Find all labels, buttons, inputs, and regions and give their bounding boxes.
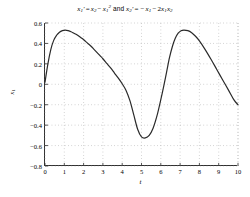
x-tick-label: 3 (101, 168, 104, 175)
y-tick-label: 0.4 (34, 40, 42, 47)
y-tick-label: −0.2 (30, 101, 42, 108)
title-x2: x2 (91, 5, 97, 13)
y-axis-label: x1 (8, 83, 16, 101)
figure-canvas: x1'=x2−x12 and x2'=−x1−2x1x2 x1 0.60.40.… (0, 0, 250, 197)
y-tick-label: 0 (39, 81, 42, 88)
chart-title: x1'=x2−x12 and x2'=−x1−2x1x2 (0, 4, 250, 13)
y-tick-label: −0.6 (30, 142, 42, 149)
plot-area: 0.60.40.20−0.2−0.4−0.6−0.8 012345678910 (44, 23, 237, 166)
x-tick-label: 10 (235, 168, 242, 175)
x-axis-label: t (44, 178, 237, 186)
x-tick-label: 1 (63, 168, 66, 175)
x-tick-label: 7 (178, 168, 181, 175)
title-x1-prime: x1' (77, 5, 84, 13)
x-tick-label: 4 (121, 168, 124, 175)
title-x1-squared: x12 (103, 5, 111, 13)
x-tick-label: 2 (82, 168, 85, 175)
y-tick-label: −0.4 (30, 122, 42, 129)
y-tick-label: −0.8 (30, 163, 42, 170)
x-tick-label: 9 (217, 168, 220, 175)
x-tick-label: 5 (140, 168, 143, 175)
y-tick-label: 0.6 (34, 20, 42, 27)
title-and: and (113, 5, 124, 12)
tick-layer (45, 23, 238, 166)
title-x2-c: x2 (167, 5, 173, 13)
x-tick-label: 8 (198, 168, 201, 175)
x-tick-label: 6 (159, 168, 162, 175)
x-tick-label: 0 (43, 168, 46, 175)
y-tick-label: 0.2 (34, 60, 42, 67)
